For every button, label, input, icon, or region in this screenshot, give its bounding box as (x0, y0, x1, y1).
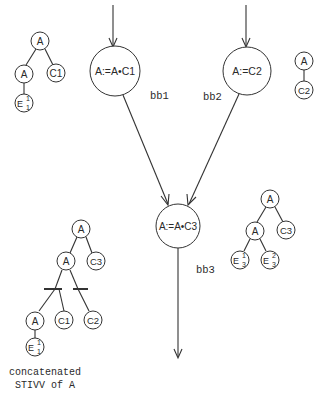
incoming-arrow-bb2 (242, 5, 250, 47)
tree-node: E (263, 256, 269, 266)
subscript: 3 (272, 261, 276, 268)
caption-line2: STIVV of A (15, 380, 75, 391)
tree-node: C2 (298, 85, 310, 96)
block-bb2-label: bb2 (203, 91, 222, 103)
superscript: 1 (242, 252, 246, 259)
subscript: 1 (26, 104, 30, 111)
tree-node: C3 (280, 225, 292, 236)
superscript: 1 (37, 339, 41, 346)
tree-node: C2 (87, 315, 99, 326)
superscript: 1 (26, 95, 30, 102)
block-bb2: A:=C2 bb2 (203, 47, 271, 103)
caption: concatenated STIVV of A (9, 367, 81, 391)
block-bb3: A:=A•C3 bb3 (156, 204, 215, 276)
tree-concatenated: A A C3 A C1 C2 E 1 1 (26, 220, 105, 356)
edge-bb1-to-bb3 (123, 95, 169, 205)
tree-node: A (267, 194, 274, 205)
tree-node: A (78, 224, 85, 235)
tree-node: A (301, 56, 308, 67)
tree-node: C1 (58, 315, 70, 326)
incoming-arrow-bb1 (109, 5, 117, 47)
tree-node: A (32, 316, 39, 327)
caption-line1: concatenated (9, 367, 81, 378)
control-flow-diagram: A:=A•C1 bb1 A:=C2 bb2 A:=A•C3 bb3 A A C1 (0, 0, 326, 394)
tree-node: C3 (90, 256, 102, 267)
tree-bb2: A C2 (295, 52, 313, 99)
block-bb1-statement: A:=A•C1 (95, 65, 135, 77)
tree-node: A (252, 226, 259, 237)
block-bb1: A:=A•C1 bb1 (90, 46, 169, 102)
edge-bb2-to-bb3 (187, 94, 239, 205)
tree-node: E (28, 343, 34, 353)
tree-bb1: A A C1 E 1 1 (15, 32, 65, 112)
tree-node: E (17, 99, 23, 109)
tree-node: C1 (50, 68, 63, 79)
block-bb1-label: bb1 (150, 90, 169, 102)
block-bb3-label: bb3 (196, 264, 215, 276)
subscript: 1 (37, 348, 41, 355)
subscript: 3 (242, 261, 246, 268)
block-bb2-statement: A:=C2 (232, 65, 262, 77)
outgoing-arrow-bb3 (174, 248, 182, 358)
tree-node: A (37, 36, 44, 47)
tree-node: A (63, 256, 70, 267)
tree-node: A (21, 69, 28, 80)
tree-node: E (233, 256, 239, 266)
tree-bb3: A A C3 E 1 3 E 2 3 (231, 190, 295, 269)
superscript: 2 (272, 252, 276, 259)
block-bb3-statement: A:=A•C3 (159, 221, 198, 232)
